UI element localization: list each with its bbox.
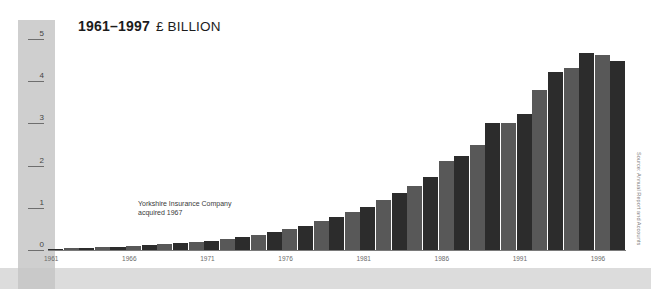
source-note-wrap: Source: Annual Report and Accounts — [636, 152, 648, 272]
y-tick-4: 4 — [28, 72, 44, 82]
x-axis-labels: 19611966197119761981198619911996 — [48, 253, 626, 267]
x-tick-1961: 1961 — [44, 255, 58, 262]
bar-1979 — [329, 217, 344, 250]
bar-1985 — [423, 177, 438, 250]
bar-1978 — [314, 221, 329, 250]
bar-1982 — [376, 200, 391, 250]
bar-1975 — [267, 232, 282, 250]
bar-1987 — [454, 156, 469, 250]
x-axis-baseline — [48, 250, 626, 251]
chart-annotation: Yorkshire Insurance Company acquired 196… — [138, 199, 232, 217]
bar-1969 — [173, 243, 188, 250]
bar-1972 — [220, 239, 235, 250]
bar-1981 — [360, 207, 375, 250]
bar-1983 — [392, 193, 407, 250]
y-tick-0: 0 — [28, 241, 44, 251]
x-tick-1991: 1991 — [513, 255, 527, 262]
footer-band — [0, 268, 651, 289]
plot-area — [48, 20, 626, 251]
y-tick-1: 1 — [28, 199, 44, 209]
bar-1974 — [251, 235, 266, 250]
x-tick-1971: 1971 — [200, 255, 214, 262]
y-tick-2: 2 — [28, 157, 44, 167]
bar-1971 — [204, 241, 219, 250]
bar-1992 — [532, 90, 547, 250]
x-tick-1981: 1981 — [356, 255, 370, 262]
y-tick-5: 5 — [28, 30, 44, 40]
bar-1993 — [548, 72, 563, 250]
bar-1976 — [282, 229, 297, 250]
bar-1970 — [189, 242, 204, 250]
x-tick-1986: 1986 — [435, 255, 449, 262]
y-tick-3: 3 — [28, 114, 44, 124]
bar-1994 — [564, 68, 579, 250]
bar-1973 — [235, 237, 250, 250]
y-axis-panel-footer — [18, 268, 55, 289]
bar-1997 — [610, 61, 625, 250]
bar-1990 — [501, 123, 516, 250]
annotation-line-2: acquired 1967 — [138, 208, 232, 217]
chart-figure: 012345 1961–1997£ BILLION 19611966197119… — [0, 0, 651, 289]
x-tick-1996: 1996 — [591, 255, 605, 262]
bar-1995 — [579, 53, 594, 250]
annotation-line-1: Yorkshire Insurance Company — [138, 199, 232, 208]
bar-1988 — [470, 145, 485, 251]
bar-1996 — [595, 55, 610, 250]
x-tick-1966: 1966 — [122, 255, 136, 262]
bar-1980 — [345, 212, 360, 250]
bar-1986 — [439, 161, 454, 250]
source-note: Source: Annual Report and Accounts — [636, 152, 642, 245]
bar-1977 — [298, 226, 313, 250]
bar-1991 — [517, 114, 532, 250]
x-tick-1976: 1976 — [278, 255, 292, 262]
bar-1984 — [407, 186, 422, 250]
bar-1989 — [485, 123, 500, 250]
